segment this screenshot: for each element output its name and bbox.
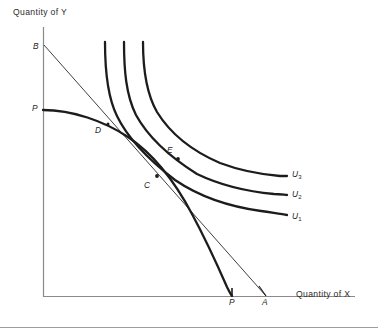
curve-label-u3: U3 (292, 170, 301, 178)
indifference-curve-u1 (105, 42, 287, 215)
curve-label-u1: U1 (292, 212, 301, 220)
point-label-b: B (33, 42, 39, 50)
point-marker-D (107, 123, 110, 126)
y-axis-title: Quantity of Y (13, 8, 67, 17)
point-marker-E (176, 157, 180, 161)
indifference-curve-u2 (124, 42, 287, 195)
tick-A-x-axis (259, 286, 266, 296)
point-label-d: D (95, 126, 101, 134)
point-label-e: E (167, 146, 173, 154)
indifference-curve-u3 (143, 42, 287, 176)
curve-label-u1-subscript: 1 (298, 216, 301, 222)
curve-label-u3-subscript: 3 (298, 174, 301, 180)
point-marker-C (155, 174, 159, 178)
economics-figure: Quantity of Y Quantity of X B P D E C P … (0, 0, 378, 334)
curve-label-u2-subscript: 2 (298, 194, 301, 200)
curve-label-u2: U2 (292, 190, 301, 198)
plot-canvas (0, 0, 378, 334)
point-label-a: A (262, 298, 268, 306)
x-axis-title: Quantity of X (296, 290, 350, 299)
intercept-ticks-group (232, 286, 266, 296)
point-label-c: C (144, 181, 150, 189)
production-possibility-frontier (43, 110, 232, 296)
axes-group (43, 27, 355, 297)
point-label-p-x-axis: P (229, 298, 235, 306)
point-label-p-y-axis: P (32, 104, 38, 112)
price-line-BA (44, 45, 266, 296)
